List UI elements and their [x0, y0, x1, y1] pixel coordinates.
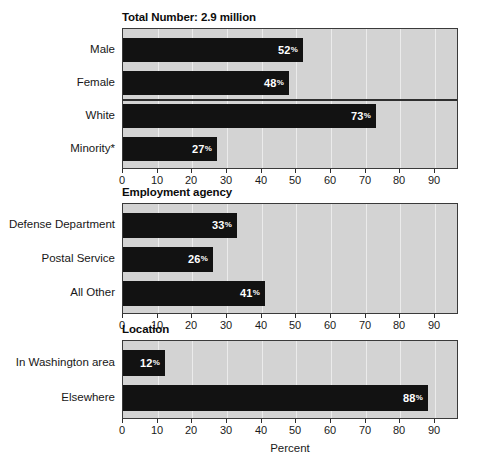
axis-tick-label: 20	[185, 424, 197, 436]
axis-tick	[365, 419, 366, 423]
gridline	[435, 341, 436, 418]
chart-figure: Total Number: 2.9 million52%48%73%27%Mal…	[0, 0, 480, 458]
axis-tick	[261, 314, 262, 318]
category-label: Elsewhere	[0, 392, 115, 404]
axis-tick	[399, 419, 400, 423]
axis-tick	[122, 169, 123, 173]
axis-tick	[434, 314, 435, 318]
group-separator	[123, 99, 457, 101]
axis-tick-label: 80	[393, 424, 405, 436]
axis-tick-label: 80	[393, 174, 405, 186]
bar: 12%	[123, 350, 165, 376]
panel-title: Employment agency	[122, 186, 232, 198]
axis-tick	[295, 169, 296, 173]
panel-title: Total Number: 2.9 million	[122, 11, 256, 23]
axis-tick-label: 20	[185, 174, 197, 186]
bar-value-label: 41%	[240, 288, 265, 299]
axis-tick	[191, 314, 192, 318]
category-label: White	[0, 110, 115, 122]
category-label: Male	[0, 44, 115, 56]
axis-tick	[399, 169, 400, 173]
bar: 73%	[123, 104, 376, 128]
axis-tick-label: 50	[289, 174, 301, 186]
bar: 52%	[123, 38, 303, 62]
gridline	[435, 204, 436, 313]
gridline	[296, 204, 297, 313]
axis-tick-label: 90	[428, 319, 440, 331]
axis-tick-label: 90	[428, 174, 440, 186]
axis-tick-label: 0	[119, 424, 125, 436]
axis-tick-label: 30	[220, 319, 232, 331]
axis-tick	[365, 314, 366, 318]
axis-tick-label: 10	[151, 424, 163, 436]
bar-value-label: 73%	[351, 111, 376, 122]
bar-value-label: 27%	[192, 144, 217, 155]
axis-tick-label: 40	[255, 174, 267, 186]
axis-tick	[330, 419, 331, 423]
category-label: In Washington area	[0, 357, 115, 369]
axis-tick	[295, 314, 296, 318]
axis-tick	[157, 169, 158, 173]
category-label: Female	[0, 77, 115, 89]
axis-tick-label: 60	[324, 174, 336, 186]
axis-tick-label: 40	[255, 424, 267, 436]
axis-tick	[261, 169, 262, 173]
axis-tick-label: 60	[324, 424, 336, 436]
plot-area: 33%26%41%	[122, 203, 458, 314]
axis-tick-label: 10	[151, 174, 163, 186]
bar: 27%	[123, 137, 217, 161]
panel-title: Location	[122, 323, 169, 335]
axis-tick-label: 60	[324, 319, 336, 331]
axis-tick	[399, 314, 400, 318]
axis-tick	[226, 169, 227, 173]
axis-tick	[122, 314, 123, 318]
bar-value-label: 12%	[140, 358, 165, 369]
axis-tick	[434, 419, 435, 423]
x-axis-title: Percent	[270, 442, 310, 454]
bar-value-label: 52%	[278, 45, 303, 56]
axis-tick-label: 50	[289, 319, 301, 331]
bar-value-label: 26%	[188, 254, 213, 265]
axis-tick	[191, 419, 192, 423]
axis-tick	[261, 419, 262, 423]
axis-tick-label: 40	[255, 319, 267, 331]
axis-tick	[122, 419, 123, 423]
gridline	[400, 204, 401, 313]
gridline	[331, 204, 332, 313]
axis-tick	[330, 169, 331, 173]
axis-tick	[226, 419, 227, 423]
axis-tick	[365, 169, 366, 173]
bar: 48%	[123, 71, 289, 95]
plot-area: 12%88%	[122, 340, 458, 419]
bar: 33%	[123, 213, 237, 238]
category-label: Postal Service	[0, 253, 115, 265]
axis-tick-label: 30	[220, 424, 232, 436]
axis-tick-label: 0	[119, 174, 125, 186]
axis-tick	[157, 419, 158, 423]
bar-value-label: 88%	[403, 393, 428, 404]
axis-tick-label: 30	[220, 174, 232, 186]
axis-tick-label: 70	[359, 174, 371, 186]
axis-tick-label: 50	[289, 424, 301, 436]
axis-tick	[295, 419, 296, 423]
bar-value-label: 48%	[264, 78, 289, 89]
axis-tick	[157, 314, 158, 318]
bar: 26%	[123, 247, 213, 272]
category-label: Minority*	[0, 143, 115, 155]
axis-tick	[226, 314, 227, 318]
axis-tick-label: 70	[359, 424, 371, 436]
axis-tick-label: 20	[185, 319, 197, 331]
axis-tick-label: 70	[359, 319, 371, 331]
bar-value-label: 33%	[212, 220, 237, 231]
category-label: All Other	[0, 287, 115, 299]
axis-tick-label: 80	[393, 319, 405, 331]
plot-area: 52%48%73%27%	[122, 28, 458, 169]
axis-tick-label: 90	[428, 424, 440, 436]
axis-tick	[330, 314, 331, 318]
axis-tick	[434, 169, 435, 173]
category-label: Defense Department	[0, 219, 115, 231]
bar: 41%	[123, 281, 265, 306]
axis-tick	[191, 169, 192, 173]
bar: 88%	[123, 385, 428, 411]
gridline	[366, 204, 367, 313]
